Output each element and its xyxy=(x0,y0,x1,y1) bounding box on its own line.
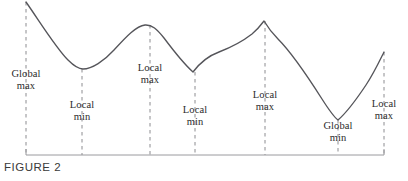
annotation-local-max-2-line2: max xyxy=(253,101,277,113)
annotation-local-max-1: Localmax xyxy=(138,62,162,85)
annotation-local-min-1-line1: Local xyxy=(70,99,94,111)
figure-container: GlobalmaxLocalminLocalmaxLocalminLocalma… xyxy=(0,0,408,181)
annotation-local-max-3: Localmax xyxy=(372,98,396,121)
annotation-local-max-3-line1: Local xyxy=(372,98,396,110)
horizontal-axis xyxy=(26,149,384,155)
annotation-global-min: Globalmin xyxy=(323,120,352,143)
annotation-local-min-2-line1: Local xyxy=(183,104,207,116)
curve-plot xyxy=(0,0,408,181)
annotation-local-max-2-line1: Local xyxy=(253,89,277,101)
annotation-global-min-line2: min xyxy=(323,132,352,144)
annotation-local-max-3-line2: max xyxy=(372,110,396,122)
annotation-local-min-2: Localmin xyxy=(183,104,207,127)
figure-caption: FIGURE 2 xyxy=(4,161,61,173)
annotation-local-max-2: Localmax xyxy=(253,89,277,112)
annotation-local-min-1: Localmin xyxy=(70,99,94,122)
annotation-local-min-1-line2: min xyxy=(70,111,94,123)
annotation-global-min-line1: Global xyxy=(323,120,352,132)
annotation-global-max: Globalmax xyxy=(11,68,40,91)
annotation-global-max-line2: max xyxy=(11,80,40,92)
annotation-local-min-2-line2: min xyxy=(183,116,207,128)
annotation-local-max-1-line1: Local xyxy=(138,62,162,74)
annotation-global-max-line1: Global xyxy=(11,68,40,80)
annotation-local-max-1-line2: max xyxy=(138,74,162,86)
